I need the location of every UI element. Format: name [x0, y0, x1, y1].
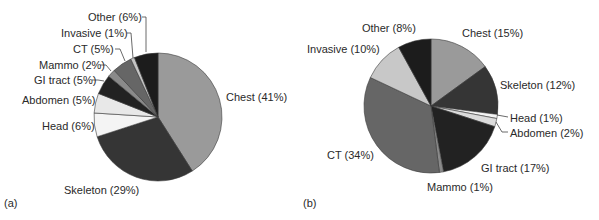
leader-ct-a: [115, 49, 125, 61]
leader-other-a: [142, 17, 146, 52]
pie-chart-a: [94, 53, 222, 181]
leader-lines-b: [496, 115, 508, 132]
label-abdomen-a: Abdomen (5%): [22, 94, 95, 106]
label-head-a: Head (6%): [42, 120, 95, 132]
label-chest-b: Chest (15%): [462, 27, 523, 39]
label-skeleton-a: Skeleton (29%): [64, 184, 139, 196]
figure: Other (6%) Invasive (1%) CT (5%) Mammo (…: [0, 0, 599, 220]
label-ct-b: CT (34%): [327, 149, 374, 161]
label-chest-a: Chest (41%): [226, 91, 287, 103]
panel-label-a: (a): [4, 197, 17, 209]
label-abdomen-b: Abdomen (2%): [510, 127, 583, 139]
panel-label-b: (b): [303, 197, 316, 209]
pie-chart-b: [364, 39, 498, 173]
leader-abdomen-b: [496, 122, 508, 132]
label-other-b: Other (8%): [362, 22, 416, 34]
label-gi-a: GI tract (5%): [34, 74, 96, 86]
label-mammo-a: Mammo (2%): [39, 59, 105, 71]
leader-head-b: [497, 115, 508, 117]
label-invasive-b: Invasive (10%): [307, 43, 380, 55]
label-gi-b: GI tract (17%): [481, 162, 549, 174]
label-mammo-b: Mammo (1%): [427, 181, 493, 193]
label-head-b: Head (1%): [510, 112, 563, 124]
label-ct-a: CT (5%): [73, 43, 114, 55]
label-other-a: Other (6%): [88, 11, 142, 23]
label-invasive-a: Invasive (1%): [61, 27, 128, 39]
label-skeleton-b: Skeleton (12%): [500, 79, 575, 91]
leader-invasive-a: [127, 33, 133, 58]
